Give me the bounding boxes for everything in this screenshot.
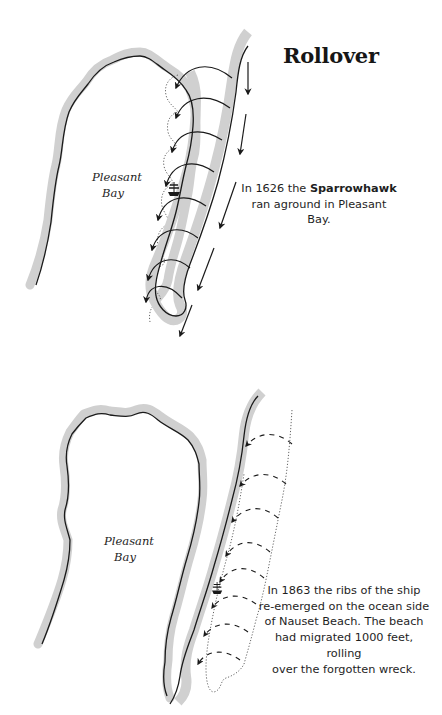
caption-line: had migrated 1000 feet, rolling	[258, 630, 430, 661]
diagram-title: Rollover	[283, 43, 379, 68]
panel-1863-map	[38, 392, 292, 704]
caption-line: over the forgotten wreck.	[258, 662, 430, 678]
caption-line: of Nauset Beach. The beach	[258, 614, 430, 630]
caption-line: In 1863 the ribs of the ship	[258, 583, 430, 599]
caption-1626-prefix: In 1626 the	[241, 182, 310, 195]
caption-1626: In 1626 the Sparrowhawk ran aground in P…	[240, 181, 398, 228]
caption-1863: In 1863 the ribs of the ship re-emerged …	[258, 583, 430, 677]
bay-label-1863: Pleasant Bay	[100, 533, 158, 565]
bay-label-line1: Pleasant	[88, 169, 146, 185]
bay-label-line2: Bay	[92, 549, 158, 565]
bay-label-1626: Pleasant Bay	[88, 169, 146, 201]
caption-1626-suffix: ran aground in Pleasant Bay.	[252, 198, 387, 227]
bay-label-line2: Bay	[80, 185, 146, 201]
bay-label-line1: Pleasant	[100, 533, 158, 549]
ship-name: Sparrowhawk	[310, 182, 397, 195]
caption-line: re-emerged on the ocean side	[258, 599, 430, 615]
